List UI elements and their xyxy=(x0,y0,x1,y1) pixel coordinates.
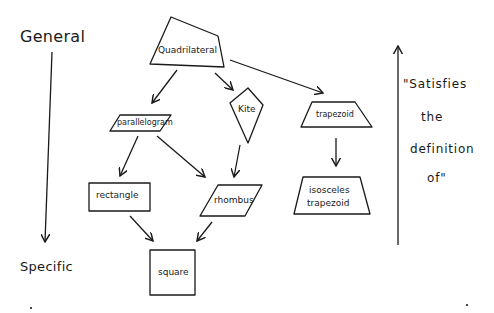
specific-label: Specific xyxy=(20,260,73,273)
parallelogram-label: parallelogram xyxy=(117,119,173,127)
satisfies-note-line3: definition xyxy=(410,143,474,155)
quadrilateral-label: Quadrilateral xyxy=(158,46,217,55)
diagram-graphics xyxy=(0,0,494,313)
stray-dot-left xyxy=(30,307,32,309)
quadrilateral-hierarchy-diagram: Quadrilateral parallelogram Kite trapezo… xyxy=(0,0,494,313)
arrow-quadrilateral-to-kite xyxy=(215,73,233,90)
arrow-kite-to-rhombus xyxy=(234,145,240,177)
stray-dot-right xyxy=(466,304,468,306)
kite-label: Kite xyxy=(238,105,255,114)
isosceles-trapezoid-label-line1: isosceles xyxy=(309,186,350,195)
arrow-parallelogram-to-rectangle xyxy=(120,136,138,176)
rhombus-label: rhombus xyxy=(214,196,254,205)
isosceles-trapezoid-shape xyxy=(294,177,370,214)
kite-shape xyxy=(230,88,263,143)
arrow-quadrilateral-to-trapezoid xyxy=(230,60,323,93)
square-label: square xyxy=(158,268,189,277)
quadrilateral-shape xyxy=(150,17,224,67)
arrow-rectangle-to-square xyxy=(130,216,153,241)
arrow-rhombus-to-square xyxy=(197,222,212,241)
general-to-specific-arrow xyxy=(45,52,52,242)
satisfies-note-line4: of" xyxy=(427,172,447,184)
satisfies-note-line1: "Satisfies xyxy=(403,78,467,90)
arrow-quadrilateral-to-parallelogram xyxy=(152,70,177,103)
arrow-parallelogram-to-rhombus xyxy=(157,136,205,177)
rectangle-label: rectangle xyxy=(96,191,139,200)
general-label: General xyxy=(20,29,85,45)
satisfies-note-line2: the xyxy=(421,111,443,123)
trapezoid-label: trapezoid xyxy=(316,111,354,119)
isosceles-trapezoid-label-line2: trapezoid xyxy=(307,199,349,208)
